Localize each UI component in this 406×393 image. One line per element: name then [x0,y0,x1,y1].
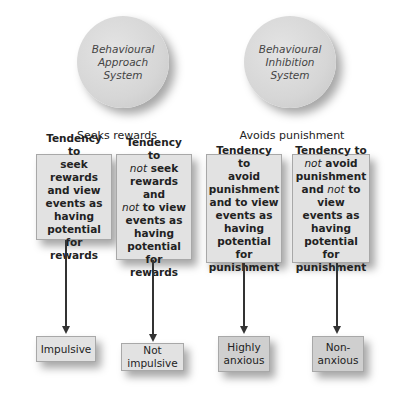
outcome-impulsive: Impulsive [36,336,96,362]
outcome-non-anxious: Non- anxious [312,336,364,372]
tendency-box-not-seek-rewards: Tendency tonot seekrewards andnot to vie… [116,154,192,260]
outcome-highly-anxious: Highly anxious [218,336,270,372]
arrow-line-1 [65,240,67,328]
arrowhead-3 [240,326,248,334]
bis-label: Behavioural Inhibition System [259,43,322,82]
bas-label: Behavioural Approach System [92,43,155,82]
bis-circle: Behavioural Inhibition System [244,16,336,108]
arrowhead-2 [149,334,157,342]
arrowhead-1 [62,326,70,334]
tendency-box-seek-rewards: Tendency to seek rewards and view events… [36,154,112,240]
arrow-line-3 [243,263,245,328]
tendency-box-not-avoid-punishment: Tendency tonot avoidpunishmentand not to… [292,154,370,263]
bas-circle: Behavioural Approach System [77,16,169,108]
arrow-line-2 [152,260,154,335]
avoids-punishment-label: Avoids punishment [230,129,354,142]
outcome-not-impulsive: Not impulsive [121,343,184,371]
arrowhead-4 [333,326,341,334]
tendency-box-avoid-punishment: Tendency to avoid punishment and to view… [206,154,282,263]
arrow-line-4 [336,263,338,328]
